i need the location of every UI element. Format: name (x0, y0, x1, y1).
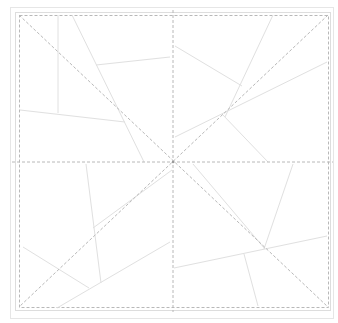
solid-crease-line (23, 247, 89, 288)
solid-crease-line (93, 170, 172, 228)
solid-crease-line (20, 110, 125, 122)
crease-pattern-diagram (0, 0, 338, 323)
solid-crease-line (96, 57, 170, 65)
solid-crease-line (264, 164, 293, 249)
diagram-svg (0, 0, 338, 323)
solid-crease-line (174, 236, 327, 268)
solid-crease-line (175, 62, 327, 137)
solid-crease-line (225, 15, 273, 117)
solid-crease-line (57, 242, 170, 308)
solid-crease-line (72, 15, 144, 162)
solid-crease-line (222, 114, 268, 162)
center-point (172, 161, 174, 163)
solid-crease-line (193, 164, 265, 249)
solid-crease-line (244, 254, 258, 306)
solid-crease-line (175, 46, 242, 86)
